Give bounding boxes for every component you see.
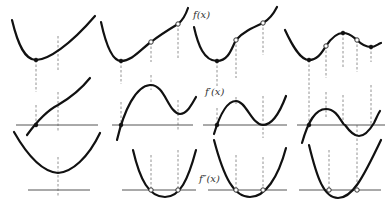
inflection-point: [327, 188, 331, 192]
extremum-point: [119, 123, 123, 127]
points: [34, 21, 373, 192]
extremum-point: [341, 31, 345, 35]
label-f-double-prime: f″(x): [198, 173, 220, 184]
curve-f-double-prime: [214, 140, 286, 197]
inflection-point: [234, 38, 238, 42]
extremum-point: [369, 45, 373, 49]
extremum-point: [34, 58, 38, 62]
inflection-point: [324, 44, 328, 48]
derivative-diagram: f(x) f′(x) f″(x): [0, 0, 387, 204]
inflection-point: [149, 188, 153, 192]
inflection-point: [176, 22, 180, 26]
extremum-point: [119, 59, 123, 63]
label-f-prime: f′(x): [204, 86, 225, 97]
curve-f-prime: [302, 109, 380, 143]
inflection-point: [149, 40, 153, 44]
inflection-point: [355, 38, 359, 42]
curve-f: [101, 8, 188, 61]
inflection-point: [261, 21, 265, 25]
label-f: f(x): [192, 9, 210, 20]
curve-f-prime: [117, 85, 196, 140]
extremum-point: [307, 123, 311, 127]
curve-f: [285, 30, 381, 60]
extremum-point: [215, 59, 219, 63]
extremum-point: [34, 123, 38, 127]
inflection-point: [261, 188, 265, 192]
curve-f: [12, 16, 95, 60]
extremum-point: [307, 58, 311, 62]
curve-f-double-prime: [14, 132, 100, 173]
curve-f-double-prime: [309, 140, 381, 198]
inflection-point: [176, 188, 180, 192]
extremum-point: [215, 123, 219, 127]
curve-f-prime: [214, 96, 286, 134]
inflection-point: [355, 188, 359, 192]
inflection-point: [234, 188, 238, 192]
